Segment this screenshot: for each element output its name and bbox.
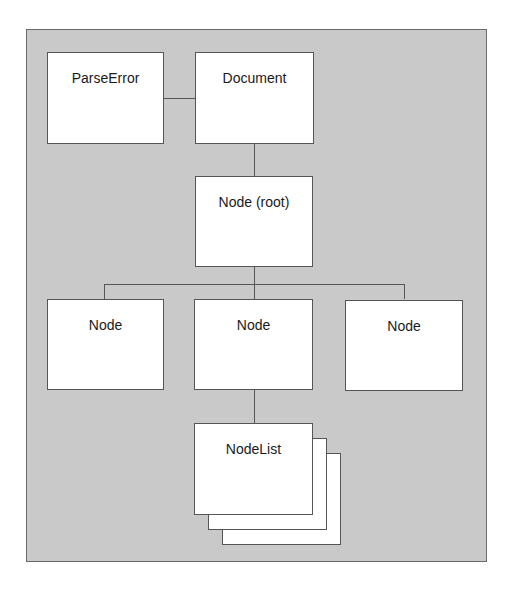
node-label: Node — [89, 317, 122, 333]
edge-parseerror-document — [163, 98, 196, 99]
node-label: Node (root) — [219, 194, 290, 210]
node-label: ParseError — [72, 70, 140, 86]
edge-root-branch — [254, 267, 255, 284]
edge-document-root — [254, 144, 255, 176]
edge-branch-right — [404, 284, 405, 299]
node-child-left: Node — [47, 299, 164, 390]
node-label: Node — [237, 317, 270, 333]
edge-branch-left — [104, 284, 105, 299]
edge-middle-nodelist — [254, 390, 255, 423]
node-child-right: Node — [345, 300, 463, 391]
node-nodelist: NodeList — [194, 423, 313, 515]
node-child-middle: Node — [194, 299, 313, 390]
node-document: Document — [195, 52, 314, 144]
edge-branch-middle — [254, 284, 255, 299]
node-parseerror: ParseError — [47, 52, 164, 144]
node-root: Node (root) — [195, 176, 313, 267]
node-label: NodeList — [226, 441, 281, 457]
node-label: Document — [223, 70, 287, 86]
node-label: Node — [387, 318, 420, 334]
